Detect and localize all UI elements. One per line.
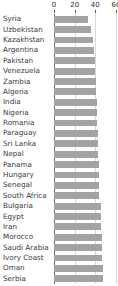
bar-row (54, 57, 116, 64)
category-label: Iran (0, 223, 52, 231)
category-label: Venezuela (0, 67, 52, 75)
category-label: Syria (0, 15, 52, 23)
bar (54, 57, 95, 64)
bar-row (54, 26, 116, 33)
category-label: Serbia (0, 275, 52, 283)
bar-row (54, 182, 116, 189)
bar-row (54, 223, 116, 230)
bar (54, 244, 102, 251)
bar-row (54, 213, 116, 220)
bar-row (54, 234, 116, 241)
bar-row (54, 16, 116, 23)
bar-row (54, 78, 116, 85)
category-label: Bulgaria (0, 202, 52, 210)
bar-row (54, 120, 116, 127)
category-label: Paraguay (0, 129, 52, 137)
x-tick-label: 20 (70, 1, 79, 9)
bar (54, 223, 101, 230)
bar-row (54, 130, 116, 137)
category-label: Uzbekistan (0, 26, 52, 34)
category-label: Ivory Coast (0, 254, 52, 262)
bar (54, 120, 97, 127)
category-label: Oman (0, 264, 52, 272)
bar-row (54, 140, 116, 147)
bar (54, 151, 98, 158)
category-label: Argentina (0, 46, 52, 54)
category-axis-labels: SyriaUzbekistanKazakhstanArgentinaPakist… (0, 14, 54, 284)
bar (54, 161, 99, 168)
category-label: Nigeria (0, 109, 52, 117)
bar-row (54, 47, 116, 54)
category-label: Pakistan (0, 57, 52, 65)
bar (54, 130, 98, 137)
category-label: Morocco (0, 233, 52, 241)
bar (54, 140, 98, 147)
bar (54, 78, 96, 85)
bar (54, 16, 88, 23)
bar (54, 88, 96, 95)
category-label: Algeria (0, 88, 52, 96)
category-label: Kazakhstan (0, 36, 52, 44)
bar (54, 99, 97, 106)
bar (54, 109, 97, 116)
bar-row (54, 37, 116, 44)
bar-row (54, 161, 116, 168)
category-label: Senegal (0, 181, 52, 189)
bar (54, 265, 103, 272)
bar (54, 192, 99, 199)
bar-row (54, 203, 116, 210)
bar-row (54, 68, 116, 75)
bar (54, 37, 93, 44)
bar-row (54, 275, 116, 282)
bar (54, 68, 95, 75)
category-label: Hungary (0, 171, 52, 179)
category-label: Egypt (0, 213, 52, 221)
bar-row (54, 255, 116, 262)
bar-row (54, 192, 116, 199)
category-label: Saudi Arabia (0, 244, 52, 252)
category-label: Sri Lanka (0, 140, 52, 148)
bar-row (54, 265, 116, 272)
bar (54, 213, 101, 220)
bar (54, 203, 101, 210)
bar-row (54, 88, 116, 95)
category-label: Romania (0, 119, 52, 127)
x-axis: 0204060 (54, 0, 116, 14)
x-tick-mark (95, 10, 96, 13)
bar (54, 26, 91, 33)
bar-chart: 0204060 SyriaUzbekistanKazakhstanArgenti… (0, 0, 118, 286)
plot-area (54, 14, 116, 284)
category-label: Nepal (0, 150, 52, 158)
x-tick-label: 0 (52, 1, 56, 9)
bar (54, 47, 94, 54)
bar (54, 275, 103, 282)
gridline (116, 14, 117, 284)
bar (54, 255, 102, 262)
bar (54, 182, 99, 189)
category-label: Panama (0, 161, 52, 169)
bar-row (54, 109, 116, 116)
bar-row (54, 151, 116, 158)
bar-row (54, 172, 116, 179)
x-tick-label: 40 (91, 1, 100, 9)
x-tick-mark (116, 10, 117, 13)
x-tick-mark (75, 10, 76, 13)
bar-row (54, 99, 116, 106)
x-tick-mark (54, 10, 55, 13)
category-label: Zambia (0, 78, 52, 86)
category-label: India (0, 98, 52, 106)
bars-group (54, 14, 116, 284)
x-tick-label: 60 (112, 1, 118, 9)
bar (54, 234, 102, 241)
bar-row (54, 244, 116, 251)
category-label: South Africa (0, 192, 52, 200)
bar (54, 172, 99, 179)
